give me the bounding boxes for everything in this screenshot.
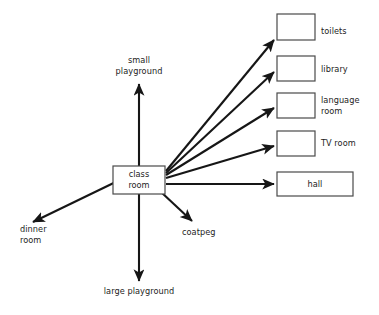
node-tv-room-box[interactable] bbox=[277, 131, 315, 156]
node-label-language-room: language room bbox=[321, 95, 377, 116]
arrow-to-library bbox=[166, 72, 274, 173]
arrow-to-coatpeg bbox=[161, 192, 192, 221]
arrow-to-language-room bbox=[166, 108, 274, 175]
node-label-toilets: toilets bbox=[321, 26, 377, 37]
node-language-room-box[interactable] bbox=[277, 93, 315, 118]
node-label-hall: hall bbox=[277, 172, 353, 196]
node-label-library: library bbox=[321, 64, 377, 75]
node-label-coatpeg: coatpeg bbox=[182, 227, 230, 238]
node-label-large-playground: large playground bbox=[100, 286, 178, 297]
node-label-dinner-room: dinner room bbox=[20, 224, 76, 245]
node-toilets-box[interactable] bbox=[277, 14, 315, 40]
diagram-vector-layer bbox=[0, 0, 379, 315]
node-label-class-room: class room bbox=[113, 166, 165, 194]
diagram-canvas: class room hall toilets library language… bbox=[0, 0, 379, 315]
node-label-small-playground: small playground bbox=[107, 55, 171, 76]
node-label-tv-room: TV room bbox=[321, 138, 377, 149]
node-library-box[interactable] bbox=[277, 56, 315, 81]
